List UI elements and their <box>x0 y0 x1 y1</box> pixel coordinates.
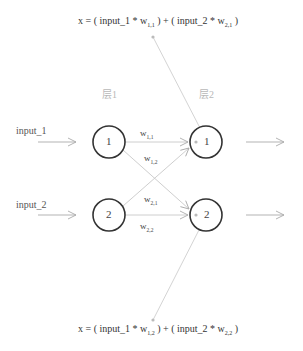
layer1-node-1-label: 1 <box>106 135 112 147</box>
layer2-node-1-dot <box>194 140 197 143</box>
layer2-node-2-label: 2 <box>204 208 210 220</box>
top-equation: x = ( input_1 * w1,1 ) + ( input_2 * w2,… <box>78 15 238 28</box>
layer-2-label: 层2 <box>199 86 214 101</box>
weight-w21-sub: 2,1 <box>151 200 158 206</box>
network-diagram <box>0 0 303 351</box>
bottom-eq-part2: ) + ( input_2 * w <box>155 323 225 334</box>
weight-w11-sub: 1,1 <box>147 134 154 140</box>
top-eq-part3: ) <box>232 15 238 26</box>
layer2-node-1-label: 1 <box>204 135 210 147</box>
bottom-eq-sub1: 1,2 <box>147 330 155 336</box>
layer2-node-2-dot <box>194 213 197 216</box>
top-eq-part2: ) + ( input_2 * w <box>155 15 225 26</box>
top-equation-connector <box>153 37 200 128</box>
weight-w12-label: w1,2 <box>144 153 157 165</box>
top-equation-dot <box>151 35 154 38</box>
input-2-label: input_2 <box>16 199 47 210</box>
bottom-equation-dot <box>151 318 154 321</box>
weight-w21-label: w2,1 <box>144 194 157 206</box>
bottom-eq-part3: ) <box>232 323 238 334</box>
weight-w11-label: w1,1 <box>140 128 153 140</box>
bottom-equation-connector <box>153 228 200 320</box>
top-eq-part1: x = ( input_1 * w <box>78 15 147 26</box>
weight-w12-sub: 1,2 <box>151 159 158 165</box>
layer-1-label: 层1 <box>102 86 117 101</box>
weight-w22-sub: 2,2 <box>147 227 154 233</box>
bottom-eq-part1: x = ( input_1 * w <box>78 323 147 334</box>
bottom-equation: x = ( input_1 * w1,2 ) + ( input_2 * w2,… <box>78 323 238 336</box>
input-1-label: input_1 <box>16 125 47 136</box>
layer1-node-2-label: 2 <box>106 208 112 220</box>
weight-w22-label: w2,2 <box>140 221 153 233</box>
top-eq-sub1: 1,1 <box>147 22 155 28</box>
